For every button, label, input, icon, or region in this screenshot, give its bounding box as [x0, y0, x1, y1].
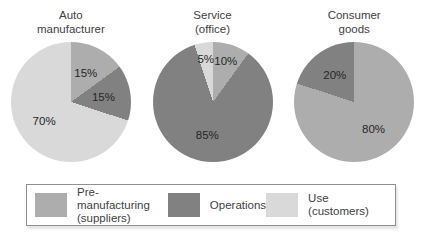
use-customers-swatch: [266, 193, 298, 217]
chart-title: Service (office): [193, 8, 231, 36]
slice-label: 20%: [323, 69, 346, 81]
slice-label: 15%: [92, 91, 115, 103]
legend-label: Use (customers): [308, 192, 389, 218]
pie-consumer-goods: 80%20%: [294, 42, 414, 162]
legend-item-operations: Operations: [168, 193, 266, 217]
slice-label: 5%: [197, 53, 214, 65]
chart-title: Auto manufacturer: [37, 8, 105, 36]
pie-auto-manufacturer: 15%15%70%: [11, 42, 131, 162]
lifecycle-pie-charts-figure: Auto manufacturer 15%15%70% Service (off…: [0, 0, 425, 237]
operations-swatch: [168, 193, 200, 217]
slice-label: 70%: [33, 115, 56, 127]
pre-manufacturing-swatch: [35, 193, 67, 217]
slice-label: 15%: [74, 67, 97, 79]
legend: Pre-manufacturing (suppliers) Operations…: [26, 184, 396, 226]
slice-label: 85%: [196, 129, 219, 141]
chart-auto-manufacturer: Auto manufacturer 15%15%70%: [0, 8, 142, 162]
chart-title: Consumer goods: [328, 8, 381, 36]
slice-label: 80%: [362, 123, 385, 135]
legend-item-pre-manufacturing: Pre-manufacturing (suppliers): [35, 186, 168, 225]
slice-label: 10%: [214, 55, 237, 67]
chart-consumer-goods: Consumer goods 80%20%: [283, 8, 425, 162]
legend-label: Operations: [210, 199, 266, 212]
legend-item-use-customers: Use (customers): [266, 192, 389, 218]
charts-row: Auto manufacturer 15%15%70% Service (off…: [0, 0, 425, 162]
chart-service-office: Service (office) 10%85%5%: [142, 8, 284, 162]
pie-service-office: 10%85%5%: [153, 42, 273, 162]
legend-label: Pre-manufacturing (suppliers): [77, 186, 168, 225]
